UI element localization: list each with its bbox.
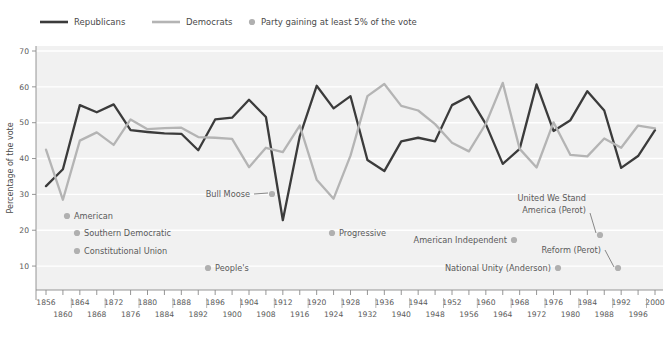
annotation-label-line2: America (Perot) (522, 205, 586, 215)
x-tick-label: 1912 (273, 298, 292, 307)
third-party-marker-dot (555, 265, 561, 271)
x-tick-label: 1916 (290, 310, 309, 319)
x-tick-label: 1880 (138, 298, 157, 307)
y-tick-label: 40 (19, 154, 29, 163)
x-tick-label: 1864 (70, 298, 89, 307)
x-tick-label: 1888 (172, 298, 191, 307)
x-tick-label: 1992 (612, 298, 631, 307)
x-tick-label: 1872 (104, 298, 123, 307)
x-tick-label: 1944 (409, 298, 428, 307)
x-tick-label: 1856 (36, 298, 55, 307)
x-tick-label: 1924 (324, 310, 343, 319)
chart-container: Republicans Democrats Party gaining at l… (0, 0, 667, 344)
third-party-marker-dot (74, 230, 80, 236)
annotation-label: Reform (Perot) (541, 245, 601, 255)
x-tick-label: 1964 (493, 310, 512, 319)
x-tick-label: 1928 (341, 298, 360, 307)
annotation-label: People's (215, 263, 249, 273)
x-tick-label: 1996 (628, 310, 647, 319)
x-tick-label: 1904 (239, 298, 258, 307)
third-party-marker-dot (511, 237, 517, 243)
annotation-label-line1: United We Stand (517, 193, 586, 203)
x-tick-label: 1980 (561, 310, 580, 319)
x-tick-label: 1920 (307, 298, 326, 307)
annotation-label: American (74, 211, 113, 221)
third-party-marker-dot (205, 265, 211, 271)
third-party-marker-dot (329, 230, 335, 236)
y-tick-label: 30 (19, 190, 29, 199)
annotation-label: American Independent (414, 235, 508, 245)
x-tick-label: 1984 (578, 298, 597, 307)
x-tick-label: 1976 (544, 298, 563, 307)
x-tick-label: 1892 (189, 310, 208, 319)
y-tick-label: 20 (19, 226, 29, 235)
x-tick-label: 1932 (358, 310, 377, 319)
third-party-marker-dot (269, 191, 275, 197)
x-tick-label: 1908 (256, 310, 275, 319)
x-tick-label: 1940 (392, 310, 411, 319)
chart-legend: Republicans Democrats Party gaining at l… (40, 17, 417, 27)
election-vote-share-line-chart: Republicans Democrats Party gaining at l… (0, 0, 667, 344)
x-tick-label: 1860 (53, 310, 72, 319)
third-party-marker-dot (597, 232, 603, 238)
x-tick-label: 1900 (222, 310, 241, 319)
x-tick-label: 1956 (459, 310, 478, 319)
third-party-marker-dot (74, 248, 80, 254)
y-tick-label: 70 (19, 47, 29, 56)
x-tick-label: 1960 (476, 298, 495, 307)
x-tick-label: 1968 (510, 298, 529, 307)
y-tick-label: 10 (19, 262, 29, 271)
third-party-marker-dot (615, 265, 621, 271)
x-tick-label: 1948 (425, 310, 444, 319)
legend-label-third-party: Party gaining at least 5% of the vote (261, 17, 417, 27)
annotation-label: Constitutional Union (84, 246, 167, 256)
legend-swatch-third-party-dot (249, 19, 255, 25)
annotation-label: Bull Moose (206, 189, 250, 199)
y-tick-label: 60 (19, 83, 29, 92)
x-tick-label: 1952 (442, 298, 461, 307)
legend-label-republicans: Republicans (74, 17, 126, 27)
annotation-label: Southern Democratic (84, 228, 171, 238)
legend-label-democrats: Democrats (186, 17, 233, 27)
y-axis-label: Percentage of the vote (6, 122, 15, 213)
third-party-marker-dot (64, 213, 70, 219)
x-tick-label: 2000 (645, 298, 664, 307)
x-tick-label: 1868 (87, 310, 106, 319)
annotation-label: National Unity (Anderson) (445, 263, 551, 273)
x-tick-label: 1988 (595, 310, 614, 319)
x-tick-label: 1972 (527, 310, 546, 319)
x-tick-label: 1936 (375, 298, 394, 307)
y-tick-label: 50 (19, 118, 29, 127)
annotation-label: Progressive (339, 228, 386, 238)
x-tick-label: 1876 (121, 310, 140, 319)
x-tick-label: 1884 (155, 310, 174, 319)
x-tick-label: 1896 (206, 298, 225, 307)
